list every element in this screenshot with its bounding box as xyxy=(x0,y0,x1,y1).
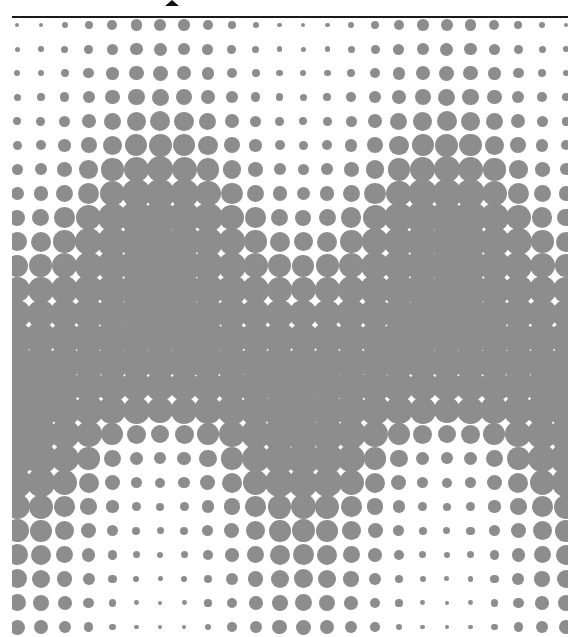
halftone-dot xyxy=(348,46,355,53)
halftone-dot xyxy=(317,232,337,252)
halftone-dot xyxy=(199,450,216,467)
halftone-dot xyxy=(56,185,73,202)
halftone-dot xyxy=(561,140,568,150)
halftone-dot xyxy=(465,477,476,488)
halftone-dot xyxy=(368,114,382,128)
halftone-dot xyxy=(107,20,117,30)
halftone-dot xyxy=(249,596,263,610)
halftone-dot xyxy=(205,624,212,631)
halftone-dot xyxy=(250,621,262,633)
halftone-dot xyxy=(467,551,474,558)
halftone-dot xyxy=(252,46,259,53)
halftone-dot xyxy=(14,94,21,101)
halftone-dot xyxy=(202,500,214,512)
halftone-dot xyxy=(54,496,75,517)
halftone-dot xyxy=(366,160,385,179)
halftone-dot xyxy=(13,117,21,125)
halftone-dot xyxy=(154,19,166,31)
halftone-dot xyxy=(461,425,480,444)
halftone-dot xyxy=(514,45,523,54)
halftone-dot xyxy=(530,470,555,495)
halftone-dot xyxy=(12,164,23,175)
halftone-dot xyxy=(12,494,30,519)
halftone-dot xyxy=(468,576,474,582)
halftone-dot xyxy=(39,23,44,28)
halftone-dot xyxy=(81,137,97,153)
halftone-dot xyxy=(417,43,429,55)
halftone-dot xyxy=(158,625,162,629)
halftone-dot xyxy=(156,503,164,511)
halftone-dot xyxy=(391,475,406,490)
halftone-dot xyxy=(83,598,94,609)
halftone-dot xyxy=(393,67,406,80)
halftone-dot xyxy=(12,519,29,542)
halftone-dot xyxy=(253,22,259,28)
halftone-dot xyxy=(272,595,288,611)
halftone-dot xyxy=(315,495,339,519)
halftone-dot xyxy=(413,112,432,131)
halftone-dot xyxy=(442,478,452,488)
halftone-dot xyxy=(440,43,453,56)
halftone-dot xyxy=(300,94,307,101)
halftone-dot xyxy=(219,205,244,230)
halftone-dot xyxy=(371,21,379,29)
halftone-dot xyxy=(339,253,364,278)
halftone-dot xyxy=(246,521,265,540)
halftone-dot xyxy=(323,117,332,126)
halftone-dot xyxy=(559,620,568,634)
halftone-dot xyxy=(132,502,141,511)
halftone-dot xyxy=(298,164,309,175)
halftone-dot xyxy=(486,113,503,130)
halftone-dot xyxy=(275,140,285,150)
halftone-dot xyxy=(348,22,354,28)
halftone-dot xyxy=(437,111,457,131)
halftone-dot xyxy=(271,570,289,588)
halftone-dot xyxy=(415,89,431,105)
halftone-dot xyxy=(150,111,170,131)
halftone-dot xyxy=(59,116,70,127)
halftone-dot xyxy=(445,601,449,605)
halftone-dot xyxy=(509,160,528,179)
halftone-dot xyxy=(390,113,407,130)
halftone-dot-field xyxy=(12,18,568,637)
halftone-dot xyxy=(490,550,500,560)
halftone-dot xyxy=(319,595,335,611)
halftone-dot xyxy=(12,544,28,565)
halftone-dot xyxy=(198,136,218,156)
halftone-dot xyxy=(123,397,150,424)
halftone-dot xyxy=(154,452,166,464)
halftone-dot xyxy=(488,500,500,512)
halftone-dot xyxy=(559,186,568,200)
halftone-dot xyxy=(459,134,481,156)
halftone-dot xyxy=(535,162,550,177)
halftone-dot xyxy=(393,525,404,536)
halftone-dot xyxy=(128,89,144,105)
halftone-dot xyxy=(181,576,187,582)
halftone-dot xyxy=(12,255,28,277)
halftone-dot xyxy=(12,187,24,200)
halftone-dot xyxy=(104,113,121,130)
halftone-dot xyxy=(202,525,213,536)
halftone-dot xyxy=(101,158,123,180)
halftone-dot xyxy=(147,397,173,423)
halftone-dot xyxy=(149,134,172,157)
halftone-dot xyxy=(83,573,95,585)
halftone-dot xyxy=(78,183,100,205)
halftone-dot xyxy=(180,527,188,535)
halftone-dot xyxy=(249,139,262,152)
halftone-dot xyxy=(294,569,313,588)
halftone-dot xyxy=(514,622,524,632)
halftone-dot xyxy=(182,600,187,605)
halftone-dot xyxy=(321,163,333,175)
halftone-dot xyxy=(33,595,49,611)
halftone-dot xyxy=(12,232,27,251)
halftone-dot xyxy=(532,496,553,517)
halftone-dot xyxy=(51,445,79,473)
halftone-dot xyxy=(57,571,73,587)
halftone-dot xyxy=(322,140,332,150)
halftone-dot xyxy=(557,570,568,588)
halftone-dot xyxy=(410,397,437,424)
halftone-dot xyxy=(245,207,266,228)
halftone-dot xyxy=(13,141,22,150)
halftone-dot xyxy=(84,45,93,54)
